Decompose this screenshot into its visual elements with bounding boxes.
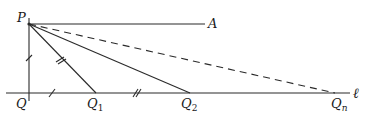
- segment-PQn-dashed: [29, 24, 335, 93]
- label-Qn: Qn: [331, 96, 348, 113]
- label-A: A: [207, 16, 217, 31]
- label-Q: Q: [16, 96, 27, 111]
- label-Q2: Q2: [181, 96, 197, 113]
- geometry-figure: P A Q Q1 Q2 Qn ℓ: [0, 0, 372, 118]
- diagram-canvas: P A Q Q1 Q2 Qn ℓ: [0, 0, 372, 118]
- label-Q1: Q1: [87, 96, 103, 113]
- label-line-l: ℓ: [353, 85, 359, 101]
- label-P: P: [16, 10, 26, 25]
- point-P: [27, 22, 30, 25]
- segment-PQ2: [29, 24, 190, 93]
